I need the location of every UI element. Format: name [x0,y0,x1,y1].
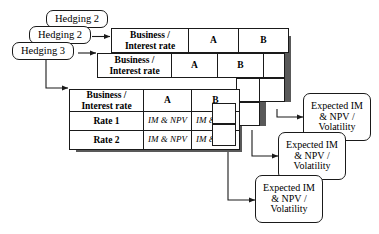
table-row: Business / Interest rate A B [98,54,264,78]
matrix-front-col-a: A [144,90,192,112]
corner-header-line2: Interest rate [98,66,171,76]
hedging-node-bottom[interactable]: Hedging 3 [12,42,74,60]
expected-middle-line3: Volatility [286,161,338,172]
matrix-back-col-a: A [189,29,239,53]
matrix-front-cell-r2c1: IM & NPV [144,131,192,150]
arrow-matrix-middle-to-expected-middle [252,130,278,156]
corner-header-line1: Business / [112,30,188,40]
corner-header-line1: Business / [98,55,171,65]
corner-header-line2: Interest rate [70,101,143,111]
matrix-front-cell-r1c1: IM & NPV [144,112,192,131]
arrow-matrix-front-to-expected-bottom [228,145,255,200]
expected-middle-line1: Expected IM [286,140,338,151]
matrix-front-stub-lower [212,124,236,146]
hedging-node-bottom-label: Hedging 3 [21,45,65,56]
expected-top-line1: Expected IM [311,101,363,112]
matrix-front-stub-upper [212,103,236,124]
diagram-canvas: Business / Interest rate A B Business / … [0,0,379,234]
hedging-node-top-label: Hedging 2 [55,13,99,24]
matrix-middle-col-a: A [172,54,218,78]
expected-node-middle-text: Expected IM & NPV / Volatility [286,140,338,172]
corner-header-line1: Business / [70,90,143,100]
matrix-middle-col-b: B [218,54,264,78]
matrix-back-corner-header: Business / Interest rate [112,29,189,53]
matrix-front-row-header-2: Rate 2 [70,131,144,150]
matrix-front-row-header-1: Rate 1 [70,112,144,131]
arrow-matrix-back-to-expected-top [277,109,303,117]
expected-node-top-text: Expected IM & NPV / Volatility [311,101,363,133]
expected-node-bottom-text: Expected IM & NPV / Volatility [263,183,315,215]
matrix-middle: Business / Interest rate A B [97,53,264,78]
matrix-back-stub-lower [259,78,285,102]
matrix-front-corner-header: Business / Interest rate [70,90,144,112]
expected-bottom-line3: Volatility [263,204,315,215]
table-row: Business / Interest rate A B [112,29,289,53]
matrix-back: Business / Interest rate A B [111,28,289,53]
arrow-hedging-bottom-to-matrix-front [46,59,68,88]
matrix-middle-corner-header: Business / Interest rate [98,54,172,78]
corner-header-line2: Interest rate [112,41,188,51]
hedging-node-middle-label: Hedging 2 [38,29,82,40]
expected-node-bottom[interactable]: Expected IM & NPV / Volatility [255,175,323,223]
matrix-back-col-b: B [239,29,289,53]
expected-node-middle[interactable]: Expected IM & NPV / Volatility [278,132,346,180]
expected-bottom-line1: Expected IM [263,183,315,194]
